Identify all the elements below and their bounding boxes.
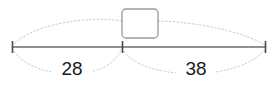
segment-label-left: 28 — [61, 58, 82, 79]
lower-dotted-arcs — [12, 48, 266, 73]
upper-arc-right — [158, 21, 266, 46]
lower-arc-right-b — [216, 48, 266, 72]
segment-label-right: 38 — [185, 58, 206, 79]
lower-arc-right-a — [122, 48, 176, 73]
lower-arc-left-b — [93, 48, 122, 71]
upper-arc-left — [12, 19, 122, 46]
bar-model-diagram: 28 38 — [0, 0, 279, 93]
answer-box[interactable] — [122, 9, 158, 38]
diagram-canvas: 28 38 — [0, 0, 279, 93]
lower-arc-left-a — [12, 48, 52, 72]
